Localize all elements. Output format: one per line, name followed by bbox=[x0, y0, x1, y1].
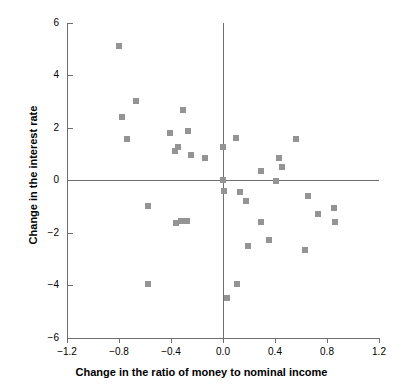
data-point bbox=[145, 203, 151, 209]
y-axis-title: Change in the interest rate bbox=[22, 5, 44, 345]
data-point bbox=[237, 189, 243, 195]
data-point bbox=[180, 107, 186, 113]
data-point bbox=[243, 198, 249, 204]
data-point bbox=[258, 168, 264, 174]
x-tick bbox=[327, 338, 328, 343]
x-tick bbox=[171, 338, 172, 343]
y-tick bbox=[67, 75, 73, 76]
data-point bbox=[233, 135, 239, 141]
data-point bbox=[221, 188, 227, 194]
scatter-chart-figure: 6420−2−4−6−1.2−0.8−0.40.00.40.81.2 Chang… bbox=[0, 0, 403, 388]
data-point bbox=[220, 177, 226, 183]
x-tick bbox=[119, 338, 120, 343]
data-point bbox=[305, 193, 311, 199]
x-tick-label: 1.2 bbox=[362, 347, 396, 357]
data-point bbox=[185, 128, 191, 134]
data-point bbox=[276, 155, 282, 161]
y-tick bbox=[67, 285, 73, 286]
y-tick bbox=[67, 128, 73, 129]
data-point bbox=[124, 136, 130, 142]
data-point bbox=[145, 281, 151, 287]
data-point bbox=[315, 211, 321, 217]
x-tick-label: −0.8 bbox=[102, 347, 136, 357]
data-point bbox=[202, 155, 208, 161]
x-tick-label: 0.8 bbox=[310, 347, 344, 357]
data-point bbox=[133, 98, 139, 104]
x-tick bbox=[67, 338, 68, 343]
x-tick-label: −1.2 bbox=[50, 347, 84, 357]
data-point bbox=[188, 152, 194, 158]
data-point bbox=[234, 281, 240, 287]
y-tick bbox=[67, 233, 73, 234]
x-tick bbox=[379, 338, 380, 343]
data-point bbox=[293, 136, 299, 142]
data-point bbox=[119, 114, 125, 120]
data-point bbox=[266, 237, 272, 243]
y-tick bbox=[67, 180, 73, 181]
data-point bbox=[184, 218, 190, 224]
data-point bbox=[167, 130, 173, 136]
y-tick bbox=[67, 23, 73, 24]
x-tick bbox=[223, 338, 224, 343]
data-point bbox=[279, 164, 285, 170]
plot-area: 6420−2−4−6−1.2−0.8−0.40.00.40.81.2 bbox=[0, 0, 403, 360]
data-point bbox=[220, 144, 226, 150]
x-tick-label: −0.4 bbox=[154, 347, 188, 357]
x-tick-label: 0.0 bbox=[206, 347, 240, 357]
x-axis-title: Change in the ratio of money to nominal … bbox=[0, 366, 403, 378]
x-tick-label: 0.4 bbox=[258, 347, 292, 357]
data-point bbox=[332, 219, 338, 225]
data-point bbox=[172, 148, 178, 154]
x-tick bbox=[275, 338, 276, 343]
data-point bbox=[116, 43, 122, 49]
data-point bbox=[245, 243, 251, 249]
data-point bbox=[224, 295, 230, 301]
data-point bbox=[258, 219, 264, 225]
data-point bbox=[331, 205, 337, 211]
data-point bbox=[302, 247, 308, 253]
data-point bbox=[273, 178, 279, 184]
